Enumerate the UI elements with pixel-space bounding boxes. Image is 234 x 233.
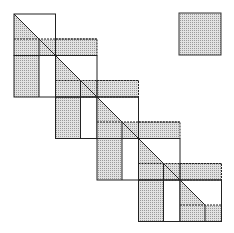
vertical-band [139,180,164,222]
vertical-band [97,139,122,181]
vertical-band [14,56,39,98]
vertical-band [56,97,81,139]
staircase-diagram [0,0,234,233]
shaded-square [179,13,221,55]
